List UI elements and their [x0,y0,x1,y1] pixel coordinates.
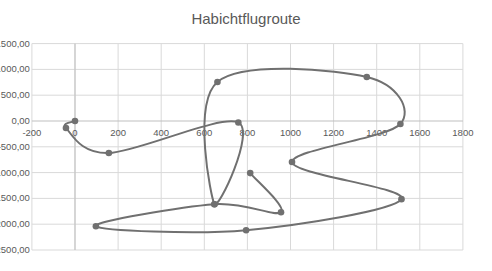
data-point-marker [397,121,404,128]
y-tick-label: 1000,00 [0,63,30,74]
data-point-marker [214,79,221,86]
x-tick-label: 200 [110,127,126,138]
y-tick-label: 0,00 [11,115,30,126]
plot-area: 1500,001000,00500,000,00-500,00-1000,00-… [0,0,492,271]
x-tick-label: 1600 [409,127,430,138]
y-axis-tick-labels: 1500,001000,00500,000,00-500,00-1000,00-… [0,38,30,255]
data-point-marker [106,150,113,157]
y-tick-label: -1500,00 [0,192,30,203]
flight-route-series [63,69,405,234]
data-point-marker [63,125,70,132]
x-tick-label: 400 [153,127,169,138]
data-point-marker [363,74,370,81]
x-tick-label: -200 [22,127,41,138]
y-tick-label: -1000,00 [0,167,30,178]
data-point-marker [93,223,100,230]
x-tick-label: 1200 [323,127,344,138]
y-tick-label: 500,00 [1,89,30,100]
route-line [65,69,405,232]
data-point-marker [211,201,218,208]
data-point-marker [247,170,254,177]
data-point-marker [278,209,285,216]
y-tick-label: 1500,00 [0,38,30,49]
data-point-marker [235,119,242,126]
x-axis-tick-labels: -200020040060080010001200140016001800 [22,127,473,138]
y-tick-label: -2000,00 [0,218,30,229]
y-tick-label: -500,00 [0,141,30,152]
y-tick-label: -2500,00 [0,244,30,255]
data-point-marker [398,196,405,203]
gridlines [32,44,463,250]
data-point-marker [72,118,79,125]
x-tick-label: 1000 [280,127,301,138]
x-tick-label: 1800 [452,127,473,138]
data-point-marker [243,227,250,234]
data-point-marker [289,159,296,166]
